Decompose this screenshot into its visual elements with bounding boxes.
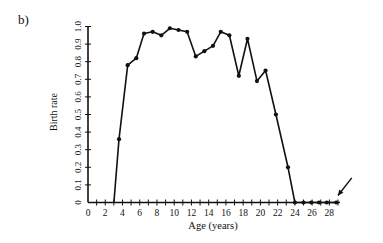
- data-point: [301, 200, 305, 204]
- data-point: [245, 37, 249, 41]
- y-tick-label: 0.1: [73, 179, 83, 190]
- data-point: [317, 200, 321, 204]
- y-tick-label: 0.6: [73, 91, 83, 103]
- data-point: [168, 26, 172, 30]
- data-series: [114, 26, 338, 204]
- data-point: [334, 200, 338, 204]
- x-tick-label: 2: [103, 208, 108, 218]
- x-tick-label: 0: [86, 208, 91, 218]
- y-tick-label: 0.4: [73, 126, 83, 138]
- x-tick-label: 8: [155, 208, 160, 218]
- data-point: [194, 54, 198, 58]
- data-point: [151, 30, 155, 34]
- y-tick-label: 0.5: [73, 108, 83, 120]
- data-point: [286, 165, 290, 169]
- data-point: [293, 200, 297, 204]
- x-tick-label: 24: [290, 208, 300, 218]
- x-tick-label: 26: [307, 208, 317, 218]
- y-tick-label: 0.3: [73, 144, 83, 156]
- x-axis-label: Age (years): [188, 220, 238, 232]
- data-point: [185, 30, 189, 34]
- x-tick-label: 22: [273, 208, 283, 218]
- y-tick-label: 1.0: [73, 20, 83, 32]
- y-tick-label: 0: [73, 200, 83, 205]
- x-tick-label: 20: [256, 208, 266, 218]
- panel-label: b): [18, 12, 29, 27]
- x-tick-label: 10: [169, 208, 179, 218]
- data-point: [159, 33, 163, 37]
- data-point: [263, 68, 267, 72]
- y-tick-label: 0.7: [73, 73, 83, 85]
- data-point: [274, 112, 278, 116]
- data-point: [309, 200, 313, 204]
- data-point: [126, 63, 130, 67]
- x-tick-label: 18: [238, 208, 248, 218]
- y-tick-label: 0.9: [73, 38, 83, 50]
- data-point: [325, 200, 329, 204]
- y-axis-label: Birth rate: [48, 92, 59, 131]
- x-tick-label: 28: [325, 208, 335, 218]
- data-point: [237, 74, 241, 78]
- x-tick-label: 12: [187, 208, 197, 218]
- data-point: [117, 137, 121, 141]
- x-tick-label: 14: [204, 208, 214, 218]
- data-point: [134, 56, 138, 60]
- data-point: [142, 31, 146, 35]
- y-tick-label: 0.2: [73, 162, 83, 173]
- data-point: [219, 30, 223, 34]
- x-tick-label: 4: [120, 208, 125, 218]
- data-point: [255, 79, 259, 83]
- data-point: [202, 49, 206, 53]
- x-tick-label: 16: [221, 208, 231, 218]
- data-line: [114, 28, 336, 202]
- data-point: [176, 28, 180, 32]
- annotations: [338, 178, 352, 196]
- data-point: [227, 33, 231, 37]
- data-point: [211, 44, 215, 48]
- birth-rate-chart: b) 024681012141618202224262800.10.20.30.…: [0, 0, 383, 243]
- y-tick-label: 0.8: [73, 56, 83, 68]
- x-tick-label: 6: [137, 208, 142, 218]
